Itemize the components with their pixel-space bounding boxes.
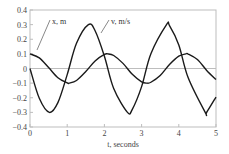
x-tick-label: 2: [102, 129, 106, 138]
y-tick-label: −0.2: [12, 94, 27, 103]
x-tick-label: 3: [140, 129, 144, 138]
x-series-label: x, m: [52, 17, 67, 26]
y-tick-label: −0.1: [12, 79, 27, 88]
x-series-leader-line: [37, 20, 50, 50]
x-tick-label: 4: [177, 129, 181, 138]
x-tick-label: 5: [214, 129, 218, 138]
x-tick-label: 0: [28, 129, 32, 138]
chart: 0.40.30.20.10−0.1−0.2−0.3−0.4 012345 x, …: [0, 0, 229, 154]
y-tick-label: 0: [23, 65, 27, 74]
y-tick-label: 0.1: [17, 50, 27, 59]
y-tick-label: −0.4: [12, 123, 27, 132]
x-tick-label: 1: [65, 129, 69, 138]
y-tick-label: 0.4: [17, 6, 27, 15]
v-series-label: v, m/s: [111, 17, 130, 26]
y-tick-label: 0.3: [17, 21, 27, 30]
v-series-leader-line: [101, 20, 109, 33]
y-tick-label: −0.3: [12, 108, 27, 117]
x-axis-ticks: 012345: [28, 124, 218, 138]
x-axis-title: t, seconds: [107, 140, 139, 149]
y-tick-label: 0.2: [17, 35, 27, 44]
